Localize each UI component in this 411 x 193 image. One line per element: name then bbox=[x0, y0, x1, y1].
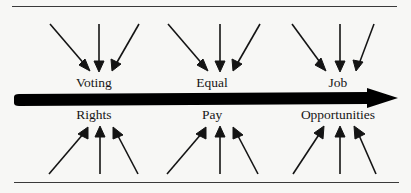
arrow-down-right-2 bbox=[237, 24, 260, 64]
label-below-1: Rights bbox=[44, 108, 144, 122]
arrowhead-up-right-2 bbox=[233, 127, 243, 139]
arrow-group-above-2 bbox=[162, 22, 262, 74]
arrowhead-up-mid-2 bbox=[215, 126, 225, 137]
arrowhead-up-mid-3 bbox=[335, 126, 345, 137]
arrowhead-up-right-1 bbox=[113, 127, 123, 139]
arrow-down-left-1 bbox=[50, 24, 86, 66]
arrow-group-above-3 bbox=[288, 22, 388, 74]
diagram-canvas: Voting Equal Job Rights Pay Opportunitie… bbox=[0, 0, 411, 193]
arrowhead-up-mid-1 bbox=[95, 126, 105, 137]
arrow-down-right-1 bbox=[116, 24, 139, 64]
label-below-2: Pay bbox=[162, 108, 262, 122]
top-divider-line bbox=[12, 6, 397, 7]
arrowhead-down-right-1 bbox=[111, 59, 121, 71]
arrowhead-down-mid-2 bbox=[215, 61, 225, 72]
label-below-3: Opportunities bbox=[283, 108, 393, 122]
arrow-up-right-1 bbox=[117, 134, 138, 174]
arrow-up-left-2 bbox=[167, 133, 202, 174]
arrowhead-up-right-3 bbox=[354, 126, 365, 139]
arrow-up-right-2 bbox=[237, 134, 258, 174]
arrow-down-left-2 bbox=[168, 24, 204, 66]
arrow-group-below-2 bbox=[162, 122, 262, 176]
bottom-divider-line bbox=[14, 182, 399, 183]
arrowhead-down-left-3 bbox=[315, 58, 326, 71]
arrow-up-right-3 bbox=[358, 133, 376, 174]
arrowhead-down-right-2 bbox=[232, 59, 242, 71]
main-arrow-shape bbox=[14, 88, 398, 108]
arrow-down-right-3 bbox=[359, 24, 374, 64]
arrow-group-below-1 bbox=[44, 122, 144, 176]
arrow-up-left-3 bbox=[293, 133, 320, 174]
arrowhead-down-right-3 bbox=[353, 60, 363, 71]
arrow-group-above-1 bbox=[44, 22, 144, 74]
arrowhead-down-mid-1 bbox=[94, 61, 104, 72]
arrow-group-below-3 bbox=[288, 122, 388, 176]
arrow-down-left-3 bbox=[292, 24, 322, 65]
arrowhead-down-mid-3 bbox=[335, 61, 345, 72]
arrowhead-up-left-3 bbox=[314, 126, 324, 139]
arrow-up-left-1 bbox=[49, 133, 84, 174]
